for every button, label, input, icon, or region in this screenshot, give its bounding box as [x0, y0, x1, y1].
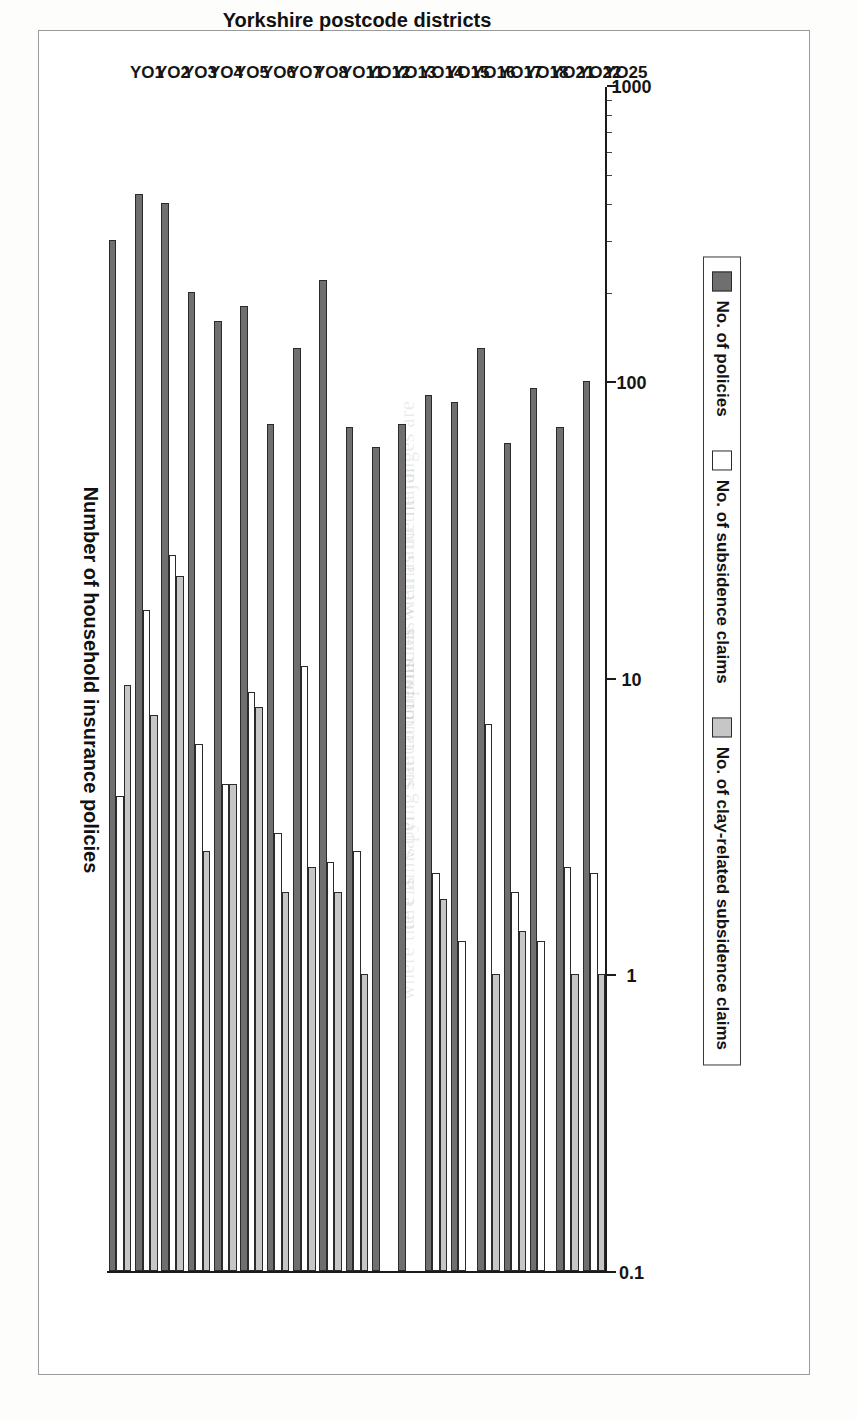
bar-YO22-series1: [563, 867, 571, 1271]
bar-YO11-series2: [334, 891, 342, 1270]
bar-YO22-series0: [556, 427, 564, 1271]
bar-YO1-series1: [116, 796, 124, 1271]
legend-item-2[interactable]: No. of clay-related subsidence claims: [712, 717, 732, 1049]
bar-YO4-series1: [195, 743, 203, 1270]
value-axis-minor-tick: [607, 131, 612, 132]
bar-YO8-series2: [308, 867, 316, 1271]
bar-YO1-series0: [108, 240, 116, 1271]
value-axis-tick: [607, 381, 616, 383]
bar-YO3-series0: [161, 203, 169, 1271]
bar-YO6-series2: [255, 706, 263, 1270]
value-axis-minor-tick: [607, 204, 612, 205]
bar-YO7-series1: [274, 833, 282, 1271]
legend-label: No. of clay-related subsidence claims: [712, 746, 732, 1049]
value-axis-minor-tick: [607, 114, 612, 115]
bar-YO7-series2: [281, 891, 289, 1270]
category-axis-title: Yorkshire postcode districts: [222, 9, 491, 32]
rotated-figure-wrapper: Number of household insurance policies 1…: [0, 0, 857, 1419]
bar-YO6-series1: [247, 691, 255, 1270]
bar-YO17-series1: [484, 723, 492, 1270]
bar-YO5-series2: [229, 783, 237, 1270]
scanned-page: and the ranges areas well as the majorof…: [0, 0, 857, 1419]
bar-chart: Number of household insurance policies 1…: [79, 55, 779, 1365]
bar-YO4-series2: [202, 851, 210, 1271]
bar-YO18-series2: [518, 931, 526, 1271]
value-axis-tick-label: 0.1: [618, 1262, 643, 1283]
bar-YO14-series0: [398, 423, 406, 1270]
value-axis-tick: [607, 1271, 616, 1273]
bar-YO16-series0: [450, 402, 458, 1271]
legend-swatch-icon: [712, 271, 732, 291]
bar-YO25-series1: [590, 872, 598, 1270]
plot-area: [107, 87, 607, 1273]
value-axis-tick-label: 10: [621, 669, 641, 690]
bar-YO22-series2: [571, 974, 579, 1271]
legend-item-1[interactable]: No. of subsidence claims: [712, 450, 732, 683]
bar-YO8-series0: [293, 347, 301, 1270]
bar-YO2-series2: [150, 715, 158, 1271]
bar-YO7-series0: [266, 423, 274, 1270]
bar-YO12-series1: [353, 851, 361, 1271]
bar-YO2-series0: [135, 193, 143, 1270]
legend-swatch-icon: [712, 450, 732, 470]
bar-YO21-series1: [537, 940, 545, 1270]
bar-YO11-series0: [319, 279, 327, 1270]
bar-YO25-series2: [597, 974, 605, 1271]
bars-layer: [107, 87, 605, 1271]
bar-YO21-series0: [529, 388, 537, 1271]
bar-YO11-series1: [326, 861, 334, 1270]
bar-YO1-series2: [123, 684, 131, 1270]
bar-YO3-series2: [176, 576, 184, 1271]
value-axis-tick: [607, 678, 616, 680]
legend-item-0[interactable]: No. of policies: [712, 271, 732, 416]
bar-YO3-series1: [168, 554, 176, 1270]
bar-YO16-series1: [458, 940, 466, 1270]
value-axis-minor-tick: [607, 241, 612, 242]
bar-YO25-series0: [582, 381, 590, 1271]
bar-YO13-series0: [372, 447, 380, 1271]
legend-swatch-icon: [712, 717, 732, 737]
value-axis-minor-tick: [607, 175, 612, 176]
bar-YO6-series0: [240, 305, 248, 1270]
bar-YO12-series0: [345, 427, 353, 1271]
bar-YO2-series1: [142, 609, 150, 1270]
value-axis-minor-tick: [607, 293, 612, 294]
chart-legend: No. of policiesNo. of subsidence claimsN…: [703, 256, 741, 1065]
bar-YO12-series2: [360, 974, 368, 1271]
legend-label: No. of policies: [712, 300, 732, 416]
value-axis-tick-label: 1: [626, 966, 636, 987]
value-axis-minor-tick: [607, 99, 612, 100]
bar-YO17-series2: [492, 974, 500, 1271]
category-label-YO25: YO25: [603, 63, 646, 83]
bar-YO8-series1: [300, 665, 308, 1270]
bar-YO18-series1: [511, 891, 519, 1270]
bar-YO5-series1: [221, 783, 229, 1270]
bar-YO15-series1: [432, 872, 440, 1270]
bar-YO15-series0: [424, 395, 432, 1271]
bar-YO18-series0: [503, 443, 511, 1271]
value-axis-title: Number of household insurance policies: [79, 87, 102, 1273]
value-axis-tick-label: 100: [616, 373, 646, 394]
bar-YO15-series2: [439, 898, 447, 1270]
bar-YO5-series0: [214, 320, 222, 1270]
value-axis-minor-tick: [607, 151, 612, 152]
legend-label: No. of subsidence claims: [712, 479, 732, 683]
bar-YO17-series0: [477, 347, 485, 1270]
bar-YO4-series0: [187, 292, 195, 1271]
value-axis-tick: [607, 974, 616, 976]
